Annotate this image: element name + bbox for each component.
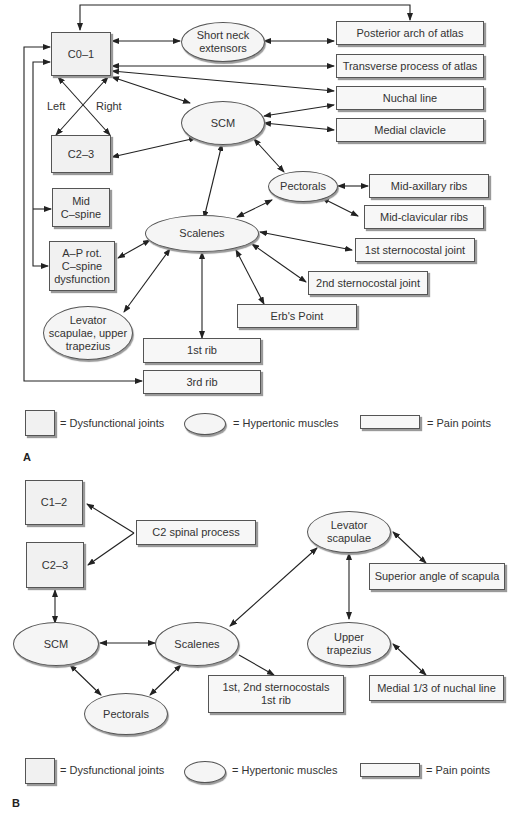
legend-pain-text: = Pain points <box>427 417 491 429</box>
pain-medial-clavicle: Medial clavicle <box>336 118 484 142</box>
legend-joint-swatch <box>25 410 55 436</box>
pain-1st-sternocostal-joint: 1st sternocostal joint <box>355 238 475 262</box>
legend-muscle-swatch-b <box>184 761 226 783</box>
pain-transverse-process-atlas: Transverse process of atlas <box>336 54 484 78</box>
joint-c0-1: C0–1 <box>51 32 111 76</box>
label-right: Right <box>96 100 122 112</box>
pain-mid-axillary-ribs: Mid-axillary ribs <box>369 174 489 198</box>
pain-erbs-point: Erb's Point <box>237 304 357 328</box>
joint-c2-3: C2–3 <box>51 135 111 173</box>
muscle-pectorals: Pectorals <box>268 171 338 202</box>
pain-posterior-arch-atlas: Posterior arch of atlas <box>336 21 484 45</box>
muscle-scm-b: SCM <box>13 622 99 666</box>
legend-joints-text-b: = Dysfunctional joints <box>60 764 164 776</box>
joint-ap-rot-cspine: A–P rot. C–spine dysfunction <box>49 241 115 291</box>
pain-nuchal-line: Nuchal line <box>336 86 484 110</box>
joint-mid-cspine: Mid C–spine <box>52 188 110 227</box>
legend-pain-text-b: = Pain points <box>426 764 490 776</box>
joint-c1-2: C1–2 <box>25 480 83 525</box>
label-left: Left <box>47 100 65 112</box>
muscle-scalenes-b: Scalenes <box>155 622 239 666</box>
legend-muscle-swatch <box>184 413 226 435</box>
legend-pain-swatch-b <box>360 763 420 777</box>
panel-label-a: A <box>23 451 31 463</box>
pain-sternocostals-1st-rib: 1st, 2nd sternocostals 1st rib <box>208 675 344 713</box>
muscle-scm: SCM <box>181 101 265 145</box>
panel-label-b: B <box>12 797 20 809</box>
pain-3rd-rib: 3rd rib <box>143 370 261 394</box>
joint-c2-3-b: C2–3 <box>26 542 84 588</box>
muscle-short-neck-extensors: Short neck extensors <box>181 22 265 62</box>
pain-mid-clavicular-ribs: Mid-clavicular ribs <box>364 205 484 229</box>
legend-joints-text: = Dysfunctional joints <box>60 417 164 429</box>
pain-1st-rib: 1st rib <box>143 338 261 363</box>
muscle-scalenes: Scalenes <box>145 215 259 252</box>
legend-muscles-text: = Hypertonic muscles <box>233 417 338 429</box>
pain-2nd-sternocostal-joint: 2nd sternocostal joint <box>308 271 428 295</box>
pain-c2-spinal-process: C2 spinal process <box>136 520 256 545</box>
muscle-pectorals-b: Pectorals <box>84 693 168 735</box>
legend-muscles-text-b: = Hypertonic muscles <box>232 764 337 776</box>
legend-joint-swatch-b <box>25 758 55 784</box>
pain-superior-angle-scapula: Superior angle of scapula <box>369 563 505 590</box>
muscle-levator-scapulae-b: Levator scapulae <box>307 511 391 553</box>
muscle-levator-upper-trapezius: Levator scapulae, upper trapezius <box>43 306 133 360</box>
legend-pain-swatch <box>360 415 420 429</box>
muscle-upper-trapezius-b: Upper trapezius <box>307 622 391 666</box>
pain-medial-nuchal-line: Medial 1/3 of nuchal line <box>369 675 504 701</box>
